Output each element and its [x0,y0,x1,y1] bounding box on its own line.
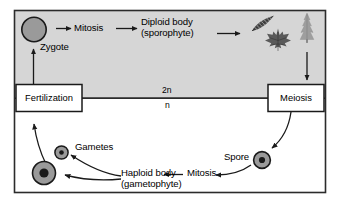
meiosis-box-label: Meiosis [268,92,324,103]
ploidy-diploid-label: 2n [162,86,171,95]
sperm-nucleus [59,150,64,155]
diploid-body-label-line2: (sporophyte) [141,28,194,38]
gametes-label: Gametes [75,142,113,152]
spore-nucleus [259,157,265,163]
life-cycle-diagram: Fertilization Meiosis Zygote Mitosis Dip… [0,0,340,203]
spore-label: Spore [224,152,249,162]
haploid-body-label-line1: Haploid body [121,168,176,178]
zygote-cell [22,17,46,41]
fertilization-box-label: Fertilization [16,92,82,103]
haploid-body-label-line2: (gametophyte) [121,179,182,189]
ploidy-haploid-label: n [165,101,170,110]
egg-nucleus [39,168,48,177]
diploid-body-label-line1: Diploid body [141,17,193,27]
mitosis-top-label: Mitosis [74,23,103,33]
mitosis-bottom-label: Mitosis [187,168,216,178]
zygote-label: Zygote [40,42,69,52]
